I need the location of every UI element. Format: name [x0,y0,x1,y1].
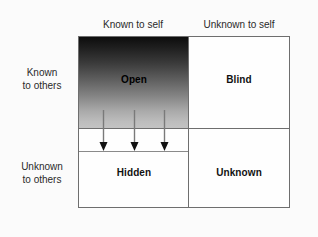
quadrant-unknown-label: Unknown [216,167,262,178]
divider-horizontal [79,128,289,129]
row-header-unknown-to-others-line2: to others [6,174,78,187]
quadrant-open-label: Open [121,74,147,85]
quadrant-blind: Blind [189,37,289,129]
column-header-known-to-self: Known to self [78,18,188,31]
divider-vertical [188,37,189,207]
johari-matrix-box: Open Blind Hidden Unknown [78,36,290,208]
divider-hidden-subline [79,151,188,152]
quadrant-unknown: Unknown [189,129,289,207]
column-header-unknown-to-self: Unknown to self [188,18,290,31]
quadrant-hidden: Hidden [79,129,189,207]
quadrant-blind-label: Blind [226,74,252,85]
row-header-known-to-others-line2: to others [6,80,78,93]
quadrant-hidden-label: Hidden [117,167,152,178]
row-header-known-to-others-line1: Known [6,67,78,80]
johari-window-diagram: Known to self Unknown to self Known to o… [0,0,318,237]
quadrant-open: Open [79,37,189,129]
row-header-known-to-others: Known to others [6,67,78,92]
row-header-unknown-to-others: Unknown to others [6,161,78,186]
row-header-unknown-to-others-line1: Unknown [6,161,78,174]
